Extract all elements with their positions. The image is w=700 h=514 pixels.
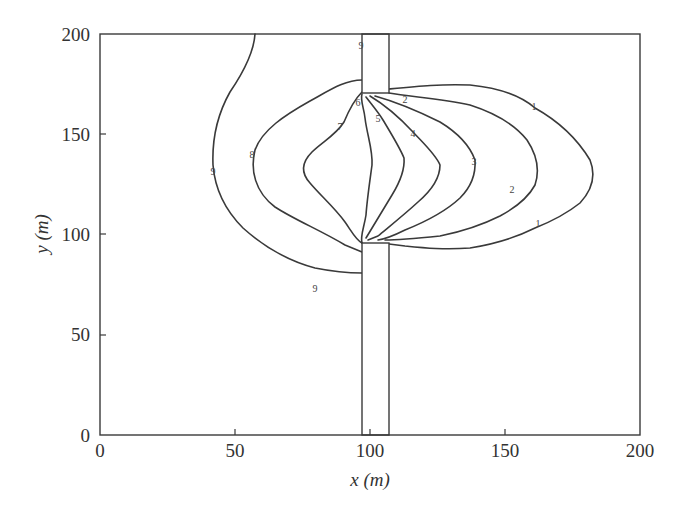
lower-wall bbox=[362, 243, 389, 435]
contour-label-9: 9 bbox=[313, 283, 318, 294]
x-tick-50: 50 bbox=[226, 440, 245, 461]
x-tick-150: 150 bbox=[491, 440, 520, 461]
contour-label-3: 3 bbox=[472, 156, 477, 167]
contour-label-1: 1 bbox=[532, 101, 537, 112]
y-tick-0: 0 bbox=[81, 425, 91, 446]
contour-7 bbox=[303, 92, 362, 243]
x-tick-labels: 0 50 100 150 200 bbox=[95, 440, 654, 461]
contour-label-4: 4 bbox=[411, 128, 416, 139]
x-tick-100: 100 bbox=[356, 440, 385, 461]
x-tick-0: 0 bbox=[95, 440, 105, 461]
y-tick-150: 150 bbox=[62, 124, 91, 145]
contour-3 bbox=[375, 96, 475, 240]
contour-label-1: 1 bbox=[536, 218, 541, 229]
upper-wall bbox=[362, 34, 389, 93]
ticks bbox=[100, 134, 505, 435]
x-tick-200: 200 bbox=[626, 440, 655, 461]
y-tick-100: 100 bbox=[62, 224, 91, 245]
contour-9 bbox=[213, 34, 362, 273]
y-axis-label: y (m) bbox=[31, 214, 53, 256]
contour-label-5: 5 bbox=[376, 113, 381, 124]
y-tick-200: 200 bbox=[62, 24, 91, 45]
contour-label-6: 6 bbox=[356, 97, 361, 108]
contour-label-7: 7 bbox=[338, 121, 343, 132]
contour-6 bbox=[361, 94, 372, 243]
contour-label-8: 8 bbox=[250, 149, 255, 160]
contour-label-2: 2 bbox=[403, 94, 408, 105]
contour-2 bbox=[385, 93, 537, 240]
contours bbox=[213, 34, 593, 273]
contour-chart: 1 1 2 2 3 4 5 6 7 8 9 9 9 0 50 100 150 2… bbox=[0, 0, 700, 514]
contour-label-2: 2 bbox=[510, 184, 515, 195]
y-tick-labels: 0 50 100 150 200 bbox=[62, 24, 91, 446]
contour-label-9: 9 bbox=[359, 40, 364, 51]
y-tick-50: 50 bbox=[71, 324, 90, 345]
contour-8 bbox=[253, 80, 362, 252]
contour-label-9: 9 bbox=[211, 166, 216, 177]
x-axis-label: x (m) bbox=[349, 469, 390, 491]
